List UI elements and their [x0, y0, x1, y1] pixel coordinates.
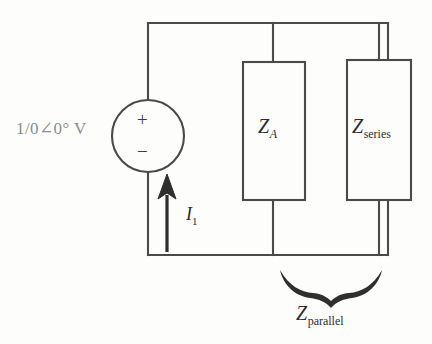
impedance-label-za: ZA [258, 116, 277, 140]
source-voltage-value: 1/0∠0° V [16, 120, 87, 134]
zparallel-subscript: parallel [308, 314, 344, 328]
za-symbol: Z [258, 115, 269, 137]
impedance-label-zparallel: Zparallel [296, 303, 344, 327]
circuit-diagram-figure: 1/0∠0° V + − ZA Zseries Zparallel I1 [0, 0, 432, 344]
current-arrow-i1 [158, 174, 176, 252]
source-polarity-plus: + [137, 110, 148, 129]
za-subscript: A [270, 127, 277, 141]
current-label-i1: I1 [186, 205, 198, 227]
impedance-label-zseries: Zseries [352, 116, 391, 140]
zseries-subscript: series [364, 127, 391, 141]
circuit-schematic-svg [0, 0, 432, 344]
i1-subscript: 1 [192, 215, 198, 227]
zseries-symbol: Z [352, 115, 363, 137]
voltage-source-symbol [112, 100, 184, 172]
source-polarity-minus: − [137, 142, 148, 161]
source-voltage-label: 1/0∠0° V [16, 117, 87, 134]
zparallel-symbol: Z [296, 302, 307, 324]
